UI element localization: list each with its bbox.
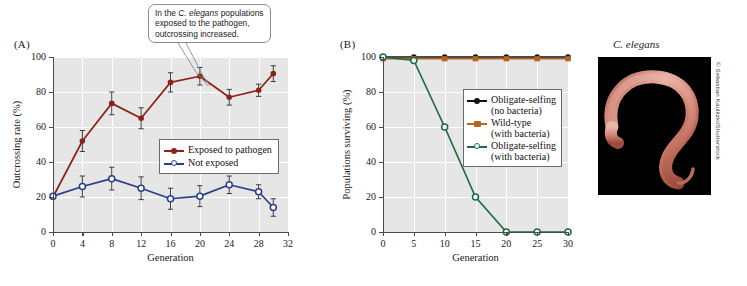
worm-illustration — [598, 57, 711, 195]
x-axis-tick-label: 0 — [369, 238, 397, 249]
legend-item-obligate-selfing-with-bacteria[interactable]: Obligate-selfing (with bacteria) — [467, 140, 556, 162]
c-elegans-photo — [598, 57, 711, 195]
legend-item-obligate-selfing-no-bacteria[interactable]: Obligate-selfing (no bacteria) — [467, 94, 556, 116]
filled-circle-marker-icon — [467, 95, 487, 106]
data-point-marker — [565, 56, 571, 61]
photo-caption: C. elegans — [613, 38, 659, 50]
y-axis-tick-label: 0 — [349, 226, 376, 237]
x-axis-tick-label: 25 — [523, 238, 551, 249]
y-axis-tick — [379, 162, 383, 163]
x-axis-tick — [476, 232, 477, 236]
x-axis-tick — [445, 232, 446, 236]
y-axis-tick — [379, 197, 383, 198]
data-point-marker — [473, 194, 479, 200]
data-point-marker — [411, 58, 417, 64]
x-axis-tick — [568, 232, 569, 236]
x-axis-tick — [414, 232, 415, 236]
y-axis-tick-label: 60 — [349, 121, 376, 132]
legend-label-sub: (with bacteria) — [491, 128, 550, 139]
data-point-marker — [442, 56, 448, 61]
y-axis-tick-label: 80 — [349, 86, 376, 97]
y-axis-line — [383, 57, 384, 233]
data-point-marker — [473, 56, 479, 61]
y-axis-tick-label: 100 — [349, 51, 376, 62]
panel-b-legend: Obligate-selfing (no bacteria) Wild-type… — [463, 89, 562, 167]
legend-label-main: Obligate-selfing — [491, 140, 556, 151]
y-axis-tick-label: 40 — [349, 156, 376, 167]
data-point-marker — [504, 56, 510, 61]
open-circle-marker-icon — [467, 141, 487, 152]
panel-b-y-axis-title: Populations surviving (%) — [341, 57, 352, 232]
y-axis-tick — [379, 127, 383, 128]
filled-square-marker-icon — [467, 118, 487, 129]
x-axis-tick-label: 15 — [462, 238, 490, 249]
x-axis-tick-label: 30 — [554, 238, 582, 249]
y-axis-tick — [379, 57, 383, 58]
x-axis-tick — [537, 232, 538, 236]
x-axis-tick-label: 5 — [400, 238, 428, 249]
y-axis-tick — [379, 92, 383, 93]
x-axis-tick-label: 20 — [492, 238, 520, 249]
legend-label-sub: (with bacteria) — [491, 151, 556, 162]
x-axis-tick — [383, 232, 384, 236]
legend-label: Obligate-selfing (with bacteria) — [491, 140, 556, 162]
data-point-marker — [534, 56, 540, 61]
panel-b-x-axis-title: Generation — [383, 252, 568, 263]
legend-label: Obligate-selfing (no bacteria) — [491, 94, 556, 116]
legend-label-sub: (no bacteria) — [491, 105, 556, 116]
x-axis-tick-label: 10 — [431, 238, 459, 249]
legend-label: Wild-type (with bacteria) — [491, 117, 550, 139]
legend-label-main: Obligate-selfing — [491, 94, 556, 105]
y-axis-tick-label: 20 — [349, 191, 376, 202]
legend-label-main: Wild-type — [491, 117, 531, 128]
legend-item-wild-type-with-bacteria[interactable]: Wild-type (with bacteria) — [467, 117, 556, 139]
data-point-marker — [442, 124, 448, 130]
x-axis-tick — [506, 232, 507, 236]
photo-credit: © Sebastian Kaulitzki/Shutterstock — [715, 62, 722, 160]
